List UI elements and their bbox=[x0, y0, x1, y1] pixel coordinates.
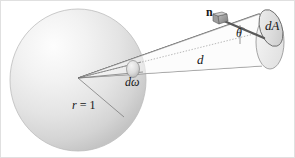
solid-angle-label: dω bbox=[125, 76, 139, 88]
radius-equals: = bbox=[77, 98, 90, 112]
distance-label: d bbox=[197, 53, 204, 66]
radius-value: 1 bbox=[89, 98, 95, 112]
diagram-canvas bbox=[0, 0, 295, 158]
theta-angle-label: θ bbox=[236, 27, 242, 39]
solid-angle-diagram: n dA θ d dω r = 1 bbox=[0, 0, 295, 158]
normal-vector-label: n bbox=[206, 6, 213, 18]
area-element-label: dA bbox=[265, 19, 279, 32]
radius-label: r = 1 bbox=[72, 99, 95, 111]
